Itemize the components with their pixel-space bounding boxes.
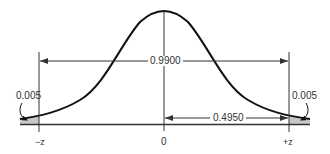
central-area-label: 0.9900 xyxy=(148,56,183,66)
right-tail-label: 0.005 xyxy=(292,91,317,101)
tick-minus-z: −z xyxy=(35,137,45,147)
tick-zero: 0 xyxy=(161,137,167,147)
half-area-label: 0.4950 xyxy=(211,113,246,123)
left-tail-label: 0.005 xyxy=(16,91,41,101)
normal-distribution-diagram xyxy=(0,0,330,154)
tick-plus-z: +z xyxy=(283,137,293,147)
